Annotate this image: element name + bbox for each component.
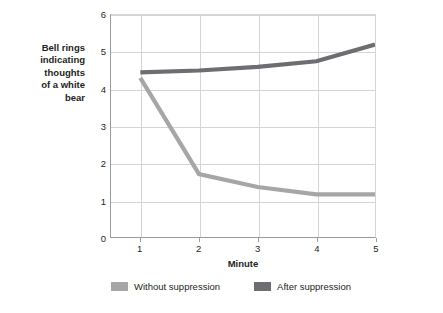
series-line (140, 45, 375, 73)
legend-item: After suppression (254, 281, 351, 292)
legend-item: Without suppression (111, 281, 220, 292)
series-line (140, 78, 375, 195)
x-axis-title: Minute (110, 258, 376, 269)
x-axis-tick-label: 3 (238, 243, 278, 254)
y-axis-tick-label: 5 (84, 46, 106, 57)
y-axis-tick-label: 3 (84, 121, 106, 132)
y-axis-tick-label: 2 (84, 158, 106, 169)
y-axis-tick-label: 0 (84, 233, 106, 244)
legend-swatch (254, 282, 271, 291)
y-axis-tick-label: 4 (84, 83, 106, 94)
x-axis-tick-mark (258, 238, 259, 242)
x-axis-tick-label: 5 (356, 243, 396, 254)
x-axis-tick-label: 2 (179, 243, 219, 254)
x-axis-tick-mark (199, 238, 200, 242)
x-axis-tick-mark (140, 238, 141, 242)
x-axis-tick-label: 4 (297, 243, 337, 254)
y-axis-tick-label: 6 (84, 9, 106, 20)
legend-swatch (111, 282, 128, 291)
data-lines (111, 15, 375, 237)
legend-label: Without suppression (134, 281, 220, 292)
chart-legend: Without suppressionAfter suppression (86, 281, 376, 292)
chart-figure: Bell rings indicating thoughts of a whit… (0, 0, 443, 313)
legend-label: After suppression (277, 281, 351, 292)
x-axis-tick-mark (317, 238, 318, 242)
y-axis-tick-labels: 6543210 (82, 14, 106, 238)
plot-area (110, 14, 376, 238)
x-axis-tick-labels: 12345 (110, 243, 376, 257)
x-axis-tick-label: 1 (120, 243, 160, 254)
y-axis-title: Bell rings indicating thoughts of a whit… (10, 42, 85, 104)
y-axis-tick-label: 1 (84, 195, 106, 206)
x-axis-tick-mark (376, 238, 377, 242)
